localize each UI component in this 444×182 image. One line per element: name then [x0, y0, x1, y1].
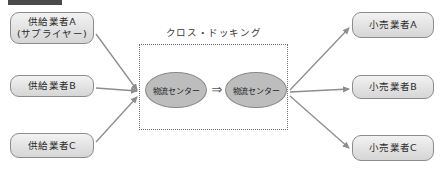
node-supplier-b[interactable]: 供給業者B [10, 75, 94, 97]
arrow-hub-to-retailer-a [290, 28, 349, 90]
hub-outbound-label: 物流センター [233, 85, 280, 96]
arrow-hub-to-retailer-b [290, 89, 349, 92]
node-supplier-c-line1: 供給業者C [28, 140, 76, 152]
node-retailer-c[interactable]: 小売業者C [352, 135, 434, 161]
node-retailer-b-line1: 小売業者B [369, 81, 417, 93]
node-supplier-a[interactable]: 供給業者A (サプライヤー) [10, 12, 94, 44]
node-supplier-a-line1: 供給業者A [28, 16, 76, 28]
node-retailer-c-line1: 小売業者C [369, 142, 417, 154]
node-retailer-a[interactable]: 小売業者A [352, 12, 434, 38]
arrow-hub-to-retailer-c [290, 96, 349, 148]
arrow-supplier-c-to-hub [96, 97, 137, 142]
hub-outbound-distribution-center[interactable]: 物流センター [225, 72, 287, 108]
node-supplier-a-line2: (サプライヤー) [17, 28, 87, 40]
node-supplier-c[interactable]: 供給業者C [10, 133, 94, 158]
arrow-supplier-b-to-hub [96, 88, 137, 91]
node-supplier-b-line1: 供給業者B [28, 80, 76, 92]
hub-inbound-label: 物流センター [153, 85, 200, 96]
node-retailer-b[interactable]: 小売業者B [352, 75, 434, 99]
arrow-supplier-a-to-hub [96, 34, 137, 90]
heading-underline-bar [8, 0, 62, 5]
node-retailer-a-line1: 小売業者A [369, 19, 417, 31]
region-title: クロス・ドッキング [139, 25, 288, 39]
diagram-canvas: クロス・ドッキング 物流センター ⇒ 物流センター 供給業者A (サプライヤー)… [0, 0, 444, 182]
hub-inbound-distribution-center[interactable]: 物流センター [145, 72, 207, 108]
inner-flow-arrow-icon: ⇒ [208, 82, 226, 97]
